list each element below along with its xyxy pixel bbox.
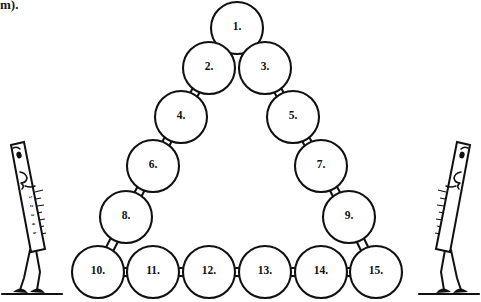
numbered-circle[interactable]: 5.: [267, 91, 319, 143]
circle-number-label: 2.: [205, 60, 214, 72]
left-leg-front: [36, 250, 40, 290]
numbered-circle[interactable]: 8.: [100, 191, 152, 243]
right-foot-front: [436, 288, 451, 293]
left-leg-back: [20, 250, 30, 290]
left-foot-front: [30, 288, 45, 293]
numbered-circle[interactable]: 7.: [295, 140, 347, 192]
numbered-circle[interactable]: 15.: [350, 246, 402, 298]
circle-number-label: 13.: [258, 264, 273, 276]
right-ruler-character: [419, 142, 479, 294]
numbered-circle[interactable]: 4.: [155, 91, 207, 143]
circle-number-label: 8.: [122, 209, 131, 221]
right-leg-front: [441, 250, 445, 290]
numbered-circle[interactable]: 12.: [183, 246, 235, 298]
circle-number-label: 3.: [261, 60, 270, 72]
circle-number-label: 1.: [233, 20, 242, 32]
numbered-circle[interactable]: 2.: [183, 42, 235, 94]
triangle-diagram: 1 2 3 4 5: [0, 0, 481, 302]
numbered-circle[interactable]: 9.: [323, 191, 375, 243]
numbered-circle[interactable]: 6.: [127, 140, 179, 192]
circle-number-label: 11.: [146, 264, 160, 276]
circle-nodes-layer: 1.2.3.4.5.6.7.8.9.10.11.12.13.14.15.: [72, 2, 402, 298]
numbered-circle[interactable]: 3.: [239, 42, 291, 94]
diagram-page: m). 1 2 3: [0, 0, 481, 302]
left-foot-back: [13, 288, 28, 293]
right-foot-back: [453, 288, 468, 293]
circle-number-label: 7.: [317, 158, 326, 170]
left-ruler-character: 1 2 3 4 5: [2, 142, 62, 294]
circle-number-label: 15.: [369, 264, 384, 276]
circle-number-label: 10.: [91, 264, 106, 276]
right-ruler-body: [436, 142, 470, 252]
numbered-circle[interactable]: 10.: [72, 246, 124, 298]
left-ruler-body: [11, 142, 45, 252]
right-leg-back: [451, 250, 461, 290]
numbered-circle[interactable]: 11.: [127, 246, 179, 298]
numbered-circle[interactable]: 14.: [295, 246, 347, 298]
circle-number-label: 4.: [177, 109, 186, 121]
circle-number-label: 5.: [289, 109, 298, 121]
circle-number-label: 9.: [345, 209, 354, 221]
circle-number-label: 12.: [202, 264, 217, 276]
circle-number-label: 6.: [149, 158, 158, 170]
circle-number-label: 14.: [314, 264, 329, 276]
numbered-circle[interactable]: 13.: [239, 246, 291, 298]
